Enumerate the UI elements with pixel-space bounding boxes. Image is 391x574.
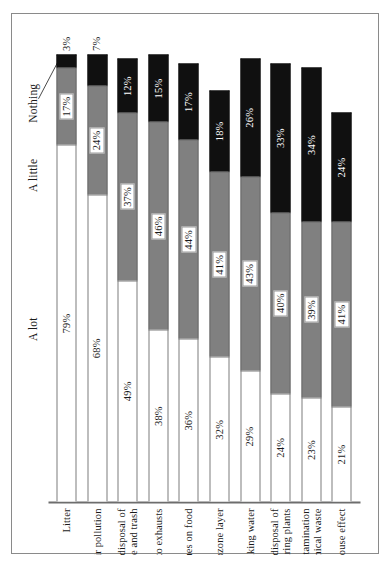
bar-group: Environmental contamination from chemica… [301, 67, 321, 501]
bar-group: Contaminated drinking water29%43%26% [240, 58, 260, 501]
bar-segment-nothing: 33% [270, 63, 290, 212]
segment-value-label: 49% [122, 381, 133, 401]
segment-value-label: 18% [214, 121, 225, 141]
category-label: Pesticide residues on food [183, 508, 195, 555]
category-label: Air pollution from auto exhausts [152, 508, 164, 555]
bar-group: Water pollution from disposal of waste b… [270, 63, 290, 501]
bar-segment-nothing: 24% [331, 112, 351, 220]
legend-label-nothing: Nothing [26, 83, 38, 122]
segment-value-label: 36% [183, 410, 194, 430]
segment-value-label: 38% [153, 406, 164, 426]
category-label: Contaminated drinking water [244, 508, 256, 555]
bar-segment-a-lot: 36% [178, 338, 198, 501]
bar-segment-a-lot: 79% [56, 144, 76, 501]
segment-value-label: 41% [212, 251, 227, 277]
segment-value-label: 32% [214, 419, 225, 439]
bar-segment-nothing: 12% [117, 58, 137, 112]
segment-value-label: 26% [244, 107, 255, 127]
bar-segment-a-little: 17% [56, 67, 76, 144]
bar-group: Litter79%17%3% [56, 54, 76, 501]
bar-segment-a-lot: 21% [331, 406, 351, 501]
segment-value-label: 24% [336, 157, 347, 177]
chart-page: A lot A little Nothing Litter79%17%3%Ind… [0, 0, 391, 574]
bar-segment-a-little: 39% [301, 221, 321, 397]
category-label: Indoor air pollution [91, 508, 103, 555]
segment-value-label: 17% [183, 92, 194, 112]
legend-label-a-little: A little [26, 158, 38, 191]
bar-segment-a-lot: 32% [209, 356, 229, 501]
bar-segment-a-lot: 38% [148, 329, 168, 501]
category-label: Litter [60, 508, 72, 532]
segment-value-label: 15% [153, 78, 164, 98]
bar-segment-a-lot: 49% [117, 280, 137, 501]
bar-segment-a-little: 41% [209, 171, 229, 356]
bar-group: Solid waste from disposal of garbage and… [117, 58, 137, 501]
segment-value-label: 7% [91, 36, 102, 50]
segment-value-label: 39% [304, 296, 319, 322]
bar-segment-a-lot: 68% [87, 194, 107, 501]
segment-value-label: 23% [306, 440, 317, 460]
figure-frame: A lot A little Nothing Litter79%17%3%Ind… [11, 13, 379, 554]
stacked-bar-chart: A lot A little Nothing Litter79%17%3%Ind… [12, 14, 380, 555]
segment-value-label: 24% [275, 437, 286, 457]
bar-segment-nothing: 17% [178, 63, 198, 140]
segment-value-label: 41% [334, 301, 349, 327]
bar-group: The greenhouse effect21%41%24% [331, 112, 351, 501]
bar-group: Pesticide residues on food36%44%17% [178, 63, 198, 501]
segment-value-label: 46% [151, 213, 166, 239]
segment-value-label: 17% [59, 93, 74, 119]
rotated-plot-stage: A lot A little Nothing Litter79%17%3%Ind… [12, 14, 380, 555]
bar-segment-a-little: 44% [178, 139, 198, 338]
bar-segment-a-little: 40% [270, 212, 290, 393]
bar-group: Indoor air pollution68%24%7% [87, 54, 107, 501]
category-label: Solid waste from disposal of garbage and… [115, 508, 139, 555]
segment-value-label: 33% [275, 128, 286, 148]
segment-value-label: 21% [336, 444, 347, 464]
bar-segment-a-lot: 24% [270, 393, 290, 501]
segment-value-label: 68% [91, 338, 102, 358]
bar-segment-a-little: 41% [331, 221, 351, 406]
bar-segment-a-little: 46% [148, 121, 168, 329]
category-label: Water pollution from disposal of waste b… [268, 508, 292, 555]
bar-group: Destruction of the ozone layer32%41%18% [209, 90, 229, 501]
segment-value-label: 3% [61, 36, 72, 50]
category-label: Destruction of the ozone layer [213, 508, 225, 555]
segment-value-label: 43% [242, 260, 257, 286]
category-label: Environmental contamination from chemica… [299, 508, 323, 555]
legend-label-a-lot: A lot [26, 317, 38, 341]
bar-segment-a-lot: 29% [240, 370, 260, 501]
bar-segment-a-little: 37% [117, 112, 137, 279]
bar-segment-nothing: 3% [56, 54, 76, 68]
segment-value-label: 79% [61, 313, 72, 333]
segment-value-label: 37% [120, 183, 135, 209]
bar-segment-nothing: 18% [209, 90, 229, 171]
bar-segment-a-lot: 23% [301, 397, 321, 501]
bar-segment-a-little: 43% [240, 176, 260, 370]
segment-value-label: 12% [122, 76, 133, 96]
bar-segment-nothing: 34% [301, 67, 321, 221]
segment-value-label: 34% [306, 135, 317, 155]
category-label: The greenhouse effect [336, 508, 348, 555]
bar-segment-a-little: 24% [87, 85, 107, 193]
bar-segment-nothing: 26% [240, 58, 260, 176]
segment-value-label: 24% [89, 127, 104, 153]
segment-value-label: 40% [273, 290, 288, 316]
bar-group: Air pollution from auto exhausts38%46%15… [148, 54, 168, 501]
bar-segment-nothing: 7% [87, 54, 107, 86]
segment-value-label: 29% [244, 426, 255, 446]
bar-segment-nothing: 15% [148, 54, 168, 122]
segment-value-label: 44% [181, 226, 196, 252]
